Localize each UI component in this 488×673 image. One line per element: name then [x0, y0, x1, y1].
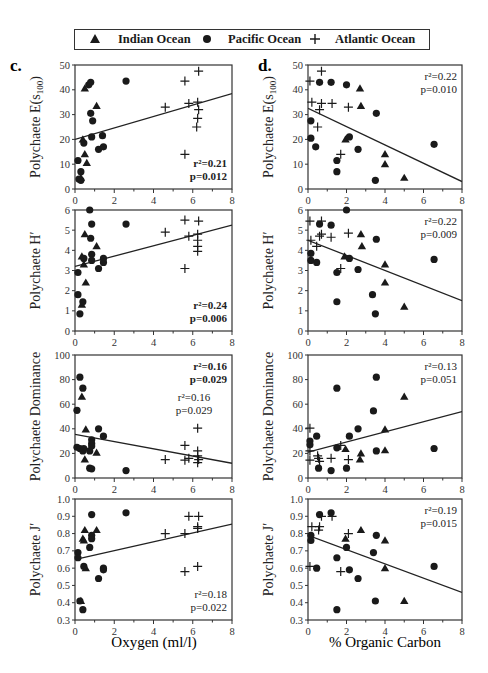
y-tick-label: 1 — [65, 305, 70, 316]
circle-marker — [354, 425, 361, 432]
circle-marker — [372, 597, 379, 604]
triangle-marker — [400, 174, 408, 181]
circle-marker — [77, 177, 84, 184]
y-tick-label: 1.0 — [57, 494, 70, 505]
plus-marker — [344, 455, 353, 464]
circle-marker — [74, 157, 81, 164]
triangle-marker — [92, 449, 100, 456]
triangle-marker — [82, 278, 90, 285]
x-tick-label: 2 — [344, 337, 349, 348]
triangle-marker — [358, 242, 366, 249]
circle-marker — [100, 566, 107, 573]
regression-line — [308, 535, 462, 592]
circle-marker — [88, 511, 95, 518]
scatter-panel-d3: 02040608010002468Polychaete Dominancer²=… — [261, 350, 465, 496]
triangle-marker — [400, 393, 408, 400]
p-value-label: p=0.010 — [421, 83, 458, 95]
scatter-panel-c1: 0102030405002468Polychaete E(s100)r²=0.2… — [28, 60, 235, 207]
x-tick-label: 6 — [421, 337, 426, 348]
y-tick-label: 0.9 — [290, 511, 303, 522]
triangle-marker — [82, 425, 90, 432]
circle-marker — [316, 79, 323, 86]
x-tick-label: 0 — [72, 484, 77, 495]
x-tick-label: 0 — [72, 626, 77, 637]
plus-marker — [305, 424, 314, 433]
x-tick-label: 8 — [459, 484, 464, 495]
y-tick-label: 3 — [298, 265, 303, 276]
x-tick-label: 2 — [112, 337, 117, 348]
plus-marker — [344, 103, 353, 112]
regression-line — [308, 240, 462, 301]
plus-marker — [180, 264, 189, 273]
plus-marker — [192, 123, 201, 132]
circle-marker — [328, 467, 335, 474]
y-tick-label: 0.7 — [57, 545, 70, 556]
triangle-marker — [381, 446, 389, 453]
y-tick-label: 0 — [65, 326, 70, 337]
circle-marker — [354, 146, 361, 153]
triangle-marker — [357, 526, 365, 533]
y-tick-label: 6 — [65, 205, 70, 216]
circle-marker — [100, 433, 107, 440]
y-tick-label: 10 — [293, 159, 304, 170]
plus-marker — [307, 98, 316, 107]
circle-marker — [307, 250, 314, 257]
plus-marker — [180, 529, 189, 538]
circle-marker — [343, 465, 350, 472]
series-pacific-ocean — [74, 78, 129, 184]
triangle-marker — [381, 160, 389, 167]
circle-marker — [346, 133, 353, 140]
y-tick-label: 0.5 — [290, 580, 303, 591]
y-tick-label: 0.6 — [290, 563, 303, 574]
plus-marker — [327, 454, 336, 463]
triangle-marker — [81, 150, 89, 157]
triangle-marker — [92, 242, 100, 249]
circle-marker — [333, 606, 340, 613]
circle-marker — [88, 133, 95, 140]
circle-marker — [100, 143, 107, 150]
y-tick-label: 50 — [60, 60, 71, 71]
circle-marker — [86, 206, 93, 213]
y-tick-label: 0 — [298, 473, 303, 484]
plus-marker — [184, 232, 193, 241]
y-tick-label: 4 — [65, 245, 71, 256]
series-pacific-ocean — [307, 79, 437, 184]
y-tick-label: 20 — [293, 134, 304, 145]
x-tick-label: 8 — [229, 195, 234, 206]
circle-marker — [87, 235, 94, 242]
x-tick-label: 0 — [305, 195, 310, 206]
x-tick-label: 6 — [421, 195, 426, 206]
triangle-marker — [83, 159, 91, 166]
x-tick-label: 4 — [382, 626, 388, 637]
x-tick-label: 0 — [72, 195, 77, 206]
series-pacific-ocean — [306, 374, 437, 475]
plus-marker — [328, 99, 337, 108]
y-tick-label: 100 — [287, 350, 303, 361]
p-value-label: p=0.006 — [190, 312, 228, 324]
circle-marker — [346, 255, 353, 262]
circle-marker — [88, 535, 95, 542]
circle-marker — [87, 79, 94, 86]
p-value-label: p=0.022 — [191, 601, 227, 613]
circle-marker — [373, 236, 380, 243]
circle-marker — [372, 310, 379, 317]
y-tick-label: 80 — [293, 374, 304, 385]
p-value-label: p=0.015 — [421, 517, 458, 529]
circle-marker — [100, 259, 107, 266]
circle-marker — [79, 385, 86, 392]
series-atlantic-ocean — [161, 512, 203, 576]
plus-marker — [193, 247, 202, 256]
y-tick-label: 100 — [54, 350, 70, 361]
circle-marker — [372, 177, 379, 184]
triangle-marker — [357, 102, 365, 109]
plus-marker — [161, 455, 170, 464]
scatter-figure: c. d. Oxygen (ml/l) % Organic Carbon 010… — [0, 0, 488, 673]
circle-marker — [313, 259, 320, 266]
plus-marker — [194, 67, 203, 76]
circle-marker — [80, 140, 87, 147]
y-tick-label: 5 — [65, 225, 70, 236]
circle-marker — [313, 433, 320, 440]
x-tick-label: 0 — [305, 337, 310, 348]
circle-marker — [73, 407, 80, 414]
x-tick-label: 0 — [305, 626, 310, 637]
